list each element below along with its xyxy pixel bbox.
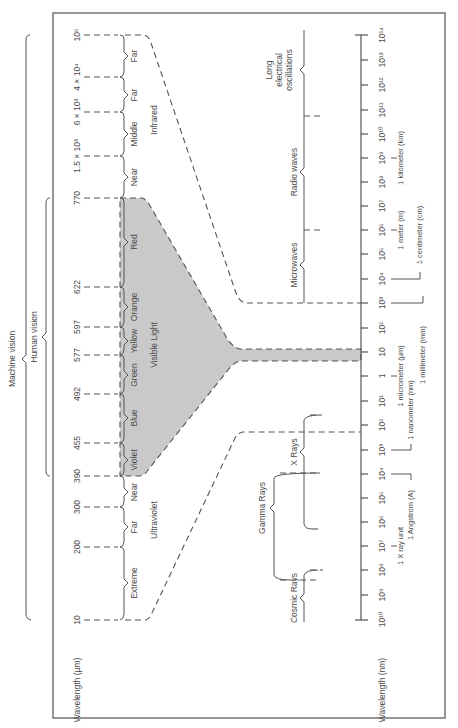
bottom-tick: 10⁹ (377, 588, 387, 601)
top-scale-tick-labels: 10 200 300 390 455 492 577 597 622 770 1… (72, 29, 82, 625)
bottom-tick: 1 (377, 373, 387, 378)
nanometer-label: 1 nanometer (nm) (406, 380, 415, 440)
bottom-tick: 10¹⁰ (377, 126, 387, 142)
meter-label: 1 meter (m) (396, 210, 405, 249)
bottom-tick: 10¹² (377, 77, 387, 92)
top-tick: 10 (72, 615, 82, 625)
gamma-rays-label: Gamma Rays (257, 482, 267, 534)
top-tick: 455 (72, 436, 82, 450)
top-scale-tick-lines (84, 35, 118, 620)
bottom-tick: 10 (377, 347, 387, 357)
band-label: Violet (129, 449, 139, 471)
human-vision-label: Human vision (29, 311, 39, 363)
band-label: Near (129, 168, 139, 187)
bottom-tick: 10³ (377, 297, 387, 309)
unit-marker-labels: 1 X ray unit 1 Angstrom (A) 1 nanometer … (396, 131, 427, 565)
top-tick: 770 (72, 191, 82, 205)
top-tick: 492 (72, 387, 82, 401)
top-tick: 6 × 10³ (72, 98, 82, 125)
ultraviolet-label: Ultraviolet (149, 500, 159, 538)
bottom-tick: 10¹³ (377, 52, 387, 67)
label-line-3: oscillations (284, 49, 294, 91)
band-label: Red (129, 234, 139, 250)
millimeter-label: 1 millimeter (mm) (418, 326, 427, 384)
machine-vision-bracket: Machine vision (7, 35, 31, 620)
diagram-canvas: Machine vision Human vision Wavelength (… (0, 0, 458, 728)
bottom-tick: 10⁵ (377, 248, 387, 261)
centimeter-label: 1 centimeter (cm) (415, 205, 424, 264)
bottom-tick: 10⁶ (377, 224, 387, 237)
bottom-axis-label: Wavelength (nm) (377, 658, 387, 723)
top-tick: 10⁶ (72, 29, 82, 42)
top-tick: 200 (72, 540, 82, 554)
band-label: Yellow (129, 328, 139, 353)
angstrom-label: 1 Angstrom (A) (406, 489, 415, 540)
infrared-label: Infrared (149, 105, 159, 135)
x-rays-label: X Rays (289, 438, 299, 465)
top-axis-label: Wavelength (µm) (72, 658, 82, 723)
band-label: Far (129, 88, 139, 101)
bottom-tick: 10² (377, 322, 387, 334)
machine-vision-label: Machine vision (7, 331, 17, 387)
bottom-tick: 10⁸ (377, 563, 387, 576)
long-electrical-oscillations-label: Long electrical oscillations (264, 49, 294, 91)
bottom-tick: 10¹ (377, 395, 387, 407)
bottom-region-brackets (270, 30, 323, 622)
band-label: Extreme (129, 567, 139, 599)
human-vision-bracket: Human vision (29, 198, 50, 476)
band-label: Far (129, 520, 139, 533)
cosmic-rays-label: Cosmic Rays (289, 573, 299, 623)
micrometer-label: 1 micrometer (µm) (396, 345, 405, 407)
top-tick: 1.5 × 10³ (72, 139, 82, 173)
bottom-tick: 10² (377, 419, 387, 431)
band-label: Far (129, 49, 139, 62)
radio-waves-label: Radio waves (289, 148, 299, 197)
microwaves-label: Microwaves (289, 243, 299, 288)
top-tick: 4 × 10⁴ (72, 63, 82, 91)
bottom-tick: 10³ (377, 444, 387, 456)
bottom-tick: 10⁷ (377, 200, 387, 213)
top-tick: 300 (72, 500, 82, 514)
x-ray-unit-label: 1 X ray unit (396, 526, 405, 565)
top-tick: 622 (72, 280, 82, 294)
top-tick: 597 (72, 320, 82, 334)
visible-light-label: Visible Light (149, 322, 159, 368)
band-label: Middle (129, 121, 139, 146)
bottom-tick: 10¹⁰ (377, 611, 387, 627)
label-line-1: Long (264, 60, 274, 79)
bottom-tick: 10⁷ (377, 540, 387, 553)
bottom-tick: 10⁸ (377, 175, 387, 188)
kilometer-label: 1 kilometer (km) (396, 131, 405, 185)
em-spectrum-diagram: Machine vision Human vision Wavelength (… (0, 0, 458, 728)
bottom-tick: 10⁵ (377, 492, 387, 505)
bottom-tick: 10⁹ (377, 151, 387, 164)
top-tick: 577 (72, 348, 82, 362)
band-label: Blue (129, 409, 139, 426)
band-label: Orange (129, 293, 139, 322)
bottom-tick: 10⁶ (377, 516, 387, 529)
label-line-2: electrical (274, 53, 284, 87)
bottom-scale-tick-labels: 10¹⁰ 10⁹ 10⁸ 10⁷ 10⁶ 10⁵ 10⁴ 10³ 10² 10¹… (377, 27, 387, 627)
band-label: Near (129, 483, 139, 502)
bottom-tick: 10¹¹ (377, 102, 387, 117)
top-tick: 390 (72, 469, 82, 483)
band-label: Green (129, 363, 139, 387)
bottom-tick: 10⁴ (377, 467, 387, 480)
ultraviolet-funnel (125, 432, 361, 620)
bottom-tick: 10¹⁴ (377, 27, 387, 43)
bottom-tick: 10⁴ (377, 272, 387, 285)
